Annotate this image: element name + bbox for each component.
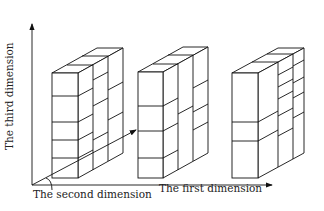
block-1 — [52, 48, 123, 178]
block-3 — [232, 48, 304, 178]
second-dimension-label: The second dimension — [33, 188, 152, 200]
diagram-canvas — [0, 0, 324, 211]
first-dimension-label: The first dimension — [159, 182, 262, 194]
third-dimension-label: The third dimension — [3, 42, 15, 150]
block-2 — [138, 47, 208, 178]
